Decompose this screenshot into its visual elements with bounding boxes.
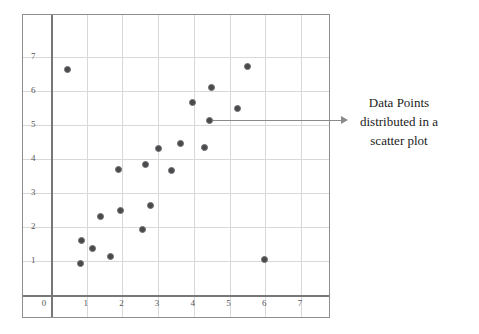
x-axis-tick-label: 4 — [191, 299, 196, 308]
x-axis-tick-label: 5 — [226, 299, 231, 308]
annotation-line: distributed in a — [360, 113, 438, 132]
data-point — [107, 253, 114, 260]
data-point — [206, 117, 213, 124]
y-axis-tick-label: 6 — [31, 86, 36, 95]
gridline-vertical — [194, 15, 195, 317]
data-point — [155, 145, 162, 152]
data-point — [64, 66, 71, 73]
annotation-arrowhead-icon — [341, 116, 348, 124]
annotation-text: Data Pointsdistributed in ascatter plot — [360, 94, 438, 151]
gridline-vertical — [230, 15, 231, 317]
gridline-horizontal — [23, 159, 329, 160]
data-point — [147, 202, 154, 209]
data-point — [168, 167, 175, 174]
annotation-line: Data Points — [360, 94, 438, 113]
data-point — [77, 260, 84, 267]
plot-area — [23, 15, 329, 317]
y-axis-tick-label: 3 — [31, 188, 36, 197]
annotation-line: scatter plot — [360, 132, 438, 151]
data-point — [189, 99, 196, 106]
gridline-horizontal — [23, 193, 329, 194]
data-point — [234, 105, 241, 112]
data-point — [139, 226, 146, 233]
chart-frame — [22, 14, 330, 318]
scatter-plot-figure: Data Pointsdistributed in ascatter plot … — [0, 0, 479, 334]
y-axis-tick-label: 4 — [31, 154, 36, 163]
gridline-vertical — [265, 15, 266, 317]
data-point — [261, 256, 268, 263]
gridline-horizontal — [23, 227, 329, 228]
data-point — [97, 213, 104, 220]
data-point — [142, 161, 149, 168]
y-axis-line — [51, 15, 53, 317]
x-axis-tick-label: 3 — [155, 299, 160, 308]
data-point — [177, 140, 184, 147]
data-point — [201, 144, 208, 151]
y-axis-tick-label: 5 — [31, 120, 36, 129]
gridline-vertical — [87, 15, 88, 317]
x-axis-tick-label: 6 — [262, 299, 267, 308]
data-point — [244, 63, 251, 70]
y-axis-tick-label: 1 — [31, 256, 36, 265]
x-axis-tick-label: 1 — [83, 299, 88, 308]
data-point — [115, 166, 122, 173]
data-point — [89, 245, 96, 252]
data-point — [78, 237, 85, 244]
x-axis-tick-label: 0 — [42, 299, 47, 308]
gridline-horizontal — [23, 91, 329, 92]
y-axis-tick-label: 2 — [31, 222, 36, 231]
x-axis-line — [23, 295, 329, 297]
gridline-horizontal — [23, 261, 329, 262]
annotation-leader-line — [213, 120, 341, 121]
gridline-vertical — [158, 15, 159, 317]
x-axis-tick-label: 7 — [298, 299, 303, 308]
gridline-horizontal — [23, 125, 329, 126]
gridline-vertical — [301, 15, 302, 317]
x-axis-tick-label: 2 — [119, 299, 124, 308]
gridline-vertical — [122, 15, 123, 317]
y-axis-tick-label: 7 — [31, 52, 36, 61]
gridline-horizontal — [23, 57, 329, 58]
